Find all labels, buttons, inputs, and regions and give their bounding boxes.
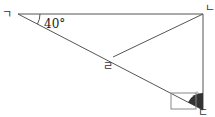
label-c: ㄷ — [198, 106, 208, 117]
triangle-diagram: ㄱ ㄴ ㄷ ㄹ 40° — [0, 0, 215, 117]
label-b: ㄴ — [205, 2, 215, 15]
angle-arc-a — [38, 14, 41, 24]
label-a: ㄱ — [2, 8, 12, 21]
label-d: ㄹ — [103, 60, 113, 73]
segment-bd — [113, 14, 203, 57]
angle-label: 40° — [44, 17, 65, 31]
